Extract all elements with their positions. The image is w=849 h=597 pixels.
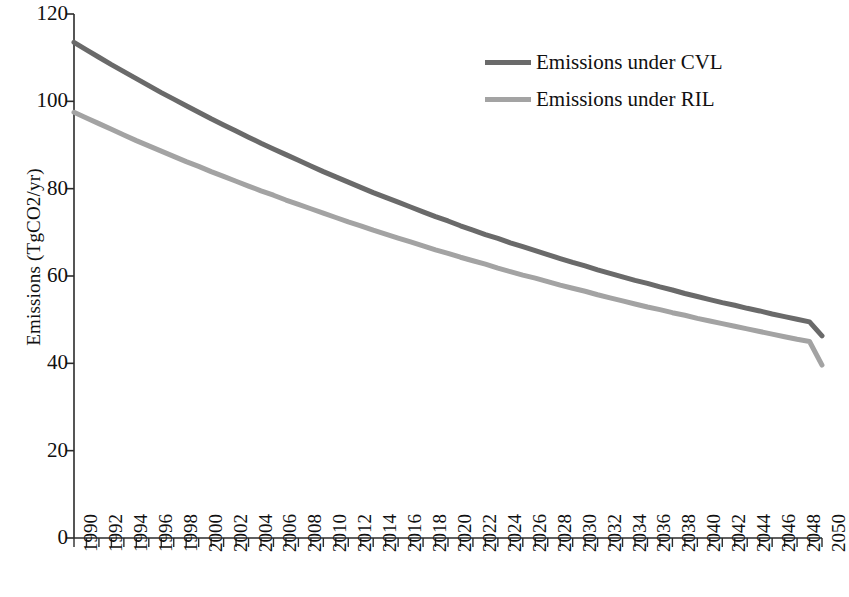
x-tick-label: 2034 — [630, 514, 649, 552]
x-tick-label: 2018 — [430, 514, 449, 552]
x-tick-label: 2028 — [555, 514, 574, 552]
y-axis-tick-labels: 020406080100120 — [0, 0, 68, 597]
series-line — [74, 112, 822, 365]
x-tick-label: 2006 — [280, 514, 299, 552]
x-tick-label: 1992 — [106, 514, 125, 552]
x-tick-label: 2048 — [804, 514, 823, 552]
x-tick-label: 2014 — [380, 514, 399, 552]
legend-item: Emissions under RIL — [485, 89, 715, 110]
x-tick-label: 2002 — [231, 514, 250, 552]
legend-label: Emissions under RIL — [536, 89, 715, 110]
legend-color-swatch — [485, 97, 531, 102]
y-tick-label: 20 — [10, 440, 68, 461]
x-tick-label: 2046 — [779, 514, 798, 552]
x-tick-label: 2024 — [505, 514, 524, 552]
x-tick-label: 1998 — [181, 514, 200, 552]
x-tick-label: 1994 — [131, 514, 150, 552]
x-tick-label: 2012 — [355, 514, 374, 552]
x-tick-label: 2036 — [654, 514, 673, 552]
x-tick-label: 2000 — [206, 514, 225, 552]
x-tick-label: 2038 — [679, 514, 698, 552]
x-tick-label: 1990 — [81, 514, 100, 552]
y-tick-label: 40 — [10, 352, 68, 373]
x-tick-label: 2044 — [754, 514, 773, 552]
x-tick-label: 2008 — [305, 514, 324, 552]
y-tick-label: 120 — [10, 3, 68, 24]
y-tick-label: 60 — [10, 265, 68, 286]
x-tick-label: 2030 — [580, 514, 599, 552]
x-tick-label: 2004 — [256, 514, 275, 552]
x-tick-label: 2010 — [330, 514, 349, 552]
x-tick-label: 2042 — [729, 514, 748, 552]
legend-color-swatch — [485, 60, 531, 65]
x-tick-label: 2040 — [704, 514, 723, 552]
x-tick-label: 2032 — [605, 514, 624, 552]
x-tick-label: 2016 — [405, 514, 424, 552]
y-tick-label: 80 — [10, 178, 68, 199]
x-tick-label: 2026 — [530, 514, 549, 552]
legend-item: Emissions under CVL — [485, 52, 723, 73]
x-tick-label: 1996 — [156, 514, 175, 552]
y-tick-label: 0 — [10, 527, 68, 548]
x-tick-label: 2050 — [829, 514, 848, 552]
legend-label: Emissions under CVL — [536, 52, 723, 73]
x-tick-label: 2020 — [455, 514, 474, 552]
x-tick-label: 2022 — [480, 514, 499, 552]
y-tick-label: 100 — [10, 90, 68, 111]
